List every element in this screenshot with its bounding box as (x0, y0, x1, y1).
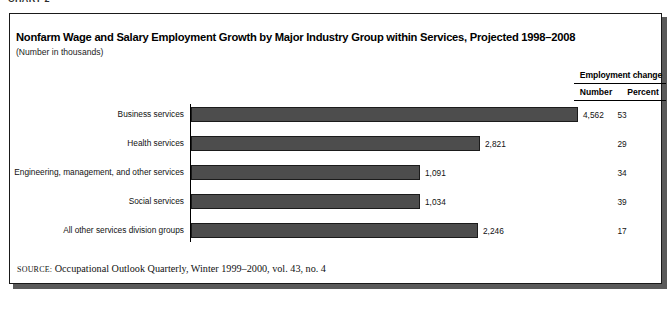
bar-value-percent: 34 (598, 168, 646, 178)
bar-value-percent: 39 (598, 197, 646, 207)
bar-category-label: All other services division groups (0, 225, 184, 235)
bar-value-percent: 29 (598, 139, 646, 149)
table-row: All other services division groups 2,246… (0, 223, 669, 238)
bar-value-number: 2,821 (485, 139, 506, 149)
bar-social-services (191, 194, 420, 209)
bar-category-label: Engineering, management, and other servi… (0, 167, 184, 177)
table-row: Health services 2,821 29 (0, 136, 669, 151)
bar-value-number: 1,034 (425, 197, 446, 207)
bar-value-percent: 17 (598, 226, 646, 236)
bar-health-services (191, 136, 480, 151)
table-row: Engineering, management, and other servi… (0, 165, 669, 180)
source-label: SOURCE: (17, 265, 52, 274)
bar-value-number: 2,246 (483, 226, 504, 236)
bar-business-services (191, 107, 578, 122)
bar-category-label: Social services (0, 196, 184, 206)
bar-value-number: 1,091 (425, 168, 446, 178)
bar-engineering-management-other-services (191, 165, 420, 180)
source-text: Occupational Outlook Quarterly, Winter 1… (55, 263, 326, 274)
table-row: Business services 4,562 53 (0, 107, 669, 122)
source-note: SOURCE: Occupational Outlook Quarterly, … (17, 263, 326, 274)
bar-category-label: Business services (0, 109, 184, 119)
bar-value-percent: 53 (598, 110, 646, 120)
bar-all-other-services-division-groups (191, 223, 478, 238)
table-row: Social services 1,034 39 (0, 194, 669, 209)
bar-category-label: Health services (0, 138, 184, 148)
